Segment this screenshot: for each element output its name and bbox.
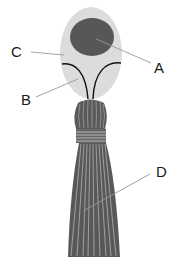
- diagram-canvas: C A B D: [0, 0, 186, 267]
- tassel-skirt-d: [68, 143, 120, 257]
- label-a: A: [154, 60, 164, 75]
- label-b: B: [21, 92, 31, 107]
- tassel-knot: [74, 100, 106, 130]
- label-d: D: [156, 164, 167, 179]
- leader-line-c: [31, 52, 64, 55]
- tassel-illustration: [0, 0, 186, 267]
- tassel-band: [76, 129, 106, 143]
- label-c: C: [11, 44, 22, 59]
- inner-ellipse-a: [70, 18, 114, 56]
